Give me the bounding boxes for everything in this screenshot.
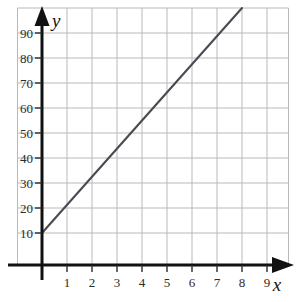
y-tick-label: 90 <box>20 26 33 41</box>
y-tick-label: 80 <box>20 51 33 66</box>
x-axis-tick-labels: 1 2 3 4 5 6 7 8 9 <box>64 275 271 290</box>
y-axis-label: y <box>50 10 61 31</box>
coordinate-plane-svg: 10 20 30 40 50 60 70 80 90 1 2 3 4 5 6 7… <box>0 0 301 302</box>
x-tick-label: 4 <box>139 275 146 290</box>
x-tick-label: 8 <box>239 275 246 290</box>
x-tick-label: 3 <box>114 275 121 290</box>
y-tick-label: 30 <box>20 176 33 191</box>
x-tick-label: 1 <box>64 275 71 290</box>
y-tick-label: 70 <box>20 76 33 91</box>
x-tick-label: 7 <box>214 275 221 290</box>
y-tick-label: 50 <box>20 126 33 141</box>
y-tick-label: 40 <box>20 151 33 166</box>
x-tick-label: 6 <box>189 275 196 290</box>
x-axis-label: x <box>272 274 282 295</box>
y-tick-label: 10 <box>20 226 33 241</box>
graph-figure: 10 20 30 40 50 60 70 80 90 1 2 3 4 5 6 7… <box>0 0 301 302</box>
x-tick-label: 2 <box>89 275 96 290</box>
x-tick-label: 9 <box>264 275 271 290</box>
y-tick-label: 60 <box>20 101 33 116</box>
y-tick-label: 20 <box>20 201 33 216</box>
x-tick-label: 5 <box>164 275 171 290</box>
figure-background <box>0 0 301 302</box>
y-axis-tick-labels: 10 20 30 40 50 60 70 80 90 <box>20 26 33 241</box>
